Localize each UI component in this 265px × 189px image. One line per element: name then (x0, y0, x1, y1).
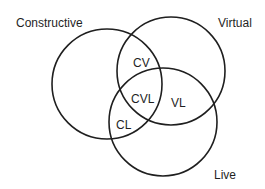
cl-intersection-label: CL (116, 119, 131, 131)
virtual-label: Virtual (218, 17, 252, 29)
live-label: Live (214, 169, 236, 181)
constructive-label: Constructive (16, 17, 83, 29)
vl-intersection-label: VL (171, 97, 186, 109)
constructive-circle (52, 29, 162, 139)
cvl-intersection-label: CVL (131, 93, 154, 105)
cv-intersection-label: CV (133, 57, 150, 69)
